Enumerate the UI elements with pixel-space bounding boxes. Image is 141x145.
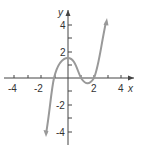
curve-arrow-down-icon [44, 130, 49, 137]
y-tick-label: 2 [60, 47, 66, 58]
graph: -4 -2 2 4 x 4 2 -2 -4 y [0, 0, 141, 145]
x-arrow-icon [128, 76, 134, 81]
axes [4, 10, 134, 145]
x-tick-label: -2 [34, 83, 43, 94]
x-axis-label: x [127, 83, 134, 94]
chart-svg: -4 -2 2 4 x 4 2 -2 -4 y [0, 0, 141, 145]
y-tick-label: -4 [56, 127, 65, 138]
x-tick-label: -4 [8, 83, 17, 94]
curve-arrow-up-icon [104, 18, 109, 26]
y-tick-label: 4 [60, 20, 66, 31]
y-axis-label: y [57, 7, 64, 18]
y-arrow-icon [66, 10, 71, 16]
y-tick-label: -2 [56, 100, 65, 111]
x-tick-label: 2 [91, 83, 97, 94]
x-tick-label: 4 [118, 83, 124, 94]
